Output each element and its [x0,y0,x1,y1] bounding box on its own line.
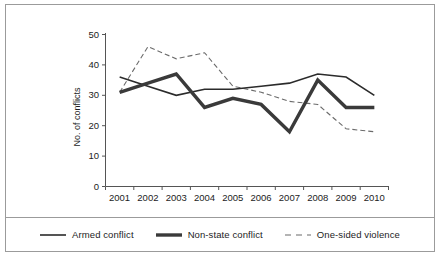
legend-swatch-solid-thin-icon [40,230,66,240]
x-tick-label-2006: 2006 [251,192,272,203]
legend-label-non-state-conflict: Non-state conflict [188,229,263,240]
legend-label-armed-conflict: Armed conflict [72,229,134,240]
y-tick-label-50: 50 [88,29,99,40]
plot-area: No. of conflicts 0 10 20 30 40 50 [6,5,434,217]
legend-item-armed-conflict: Armed conflict [40,229,134,240]
line-chart: No. of conflicts 0 10 20 30 40 50 [6,5,434,217]
x-tick-label-2007: 2007 [279,192,300,203]
x-axis-ticks [106,187,389,191]
x-tick-label-2009: 2009 [335,192,356,203]
chart-legend: Armed conflict Non-state conflict One-si… [6,218,434,251]
y-tick-label-30: 30 [88,89,99,100]
x-tick-label-2001: 2001 [109,192,130,203]
x-tick-label-2004: 2004 [194,192,215,203]
y-axis-ticks [102,35,106,187]
y-tick-label-10: 10 [88,150,99,161]
y-tick-label-20: 20 [88,120,99,131]
figure-frame: No. of conflicts 0 10 20 30 40 50 [5,4,435,252]
x-tick-label-2008: 2008 [307,192,328,203]
x-tick-label-2003: 2003 [166,192,187,203]
y-axis-label: No. of conflicts [72,87,82,147]
x-tick-label-2005: 2005 [222,192,243,203]
series-line-non-state-conflict [120,74,375,132]
y-tick-label-0: 0 [94,181,99,192]
legend-item-one-sided-violence: One-sided violence [285,229,400,240]
x-tick-label-2010: 2010 [364,192,385,203]
y-tick-label-40: 40 [88,59,99,70]
x-tick-label-2002: 2002 [137,192,158,203]
legend-swatch-solid-thick-icon [156,230,182,240]
series-line-armed-conflict [120,74,375,95]
legend-item-non-state-conflict: Non-state conflict [156,229,263,240]
legend-label-one-sided-violence: One-sided violence [317,229,400,240]
legend-swatch-dashed-icon [285,230,311,240]
